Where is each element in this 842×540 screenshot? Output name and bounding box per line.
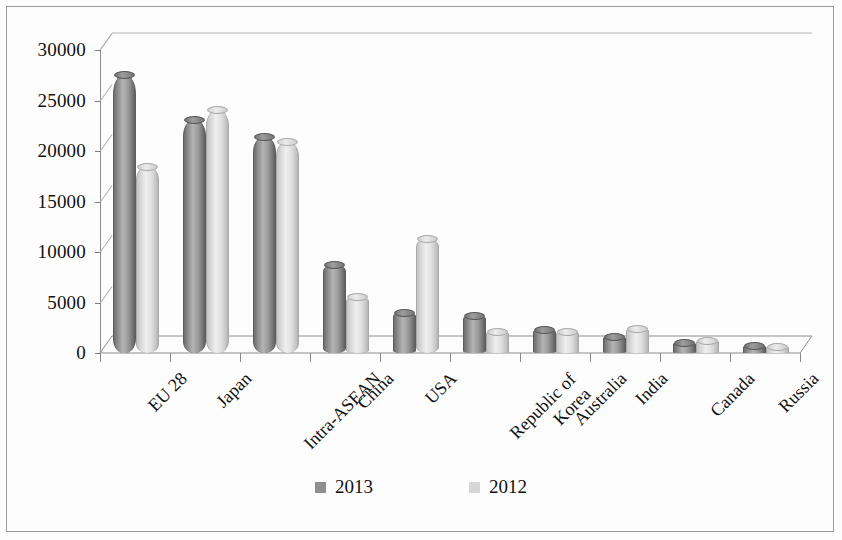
bar-2012-eu-28[interactable]: [136, 167, 159, 353]
x-axis-tick: [660, 353, 661, 362]
bar-2012-japan[interactable]: [206, 110, 229, 353]
bar-cap: [627, 325, 648, 333]
bar-2013-canada[interactable]: [673, 343, 696, 353]
bar-2013-russia[interactable]: [743, 346, 766, 353]
bar-cap: [347, 293, 368, 301]
bar-cap: [207, 106, 228, 114]
legend-swatch-2013: [315, 482, 326, 493]
bar-2013-india[interactable]: [603, 337, 626, 353]
x-axis-tick: [100, 353, 101, 362]
y-axis-tick-label: 25000: [38, 90, 87, 112]
bar-2012-australia[interactable]: [556, 332, 579, 353]
y-axis-tick-label: 15000: [38, 191, 87, 213]
x-axis-tick: [590, 353, 591, 362]
bar-cap: [417, 235, 438, 243]
bar-cap: [114, 71, 135, 79]
y-axis-tick: [95, 101, 101, 102]
y-axis-tick-label: 30000: [38, 39, 87, 61]
y-axis-tick-label: 10000: [38, 241, 87, 263]
bar-cap: [277, 138, 298, 146]
bar-2013-intra-asean[interactable]: [253, 137, 276, 353]
y-axis-tick: [95, 202, 101, 203]
bar-2012-republic-of-korea[interactable]: [486, 332, 509, 353]
bar-2012-usa[interactable]: [416, 239, 439, 353]
y-axis-tick: [95, 151, 101, 152]
bar-cap: [464, 312, 485, 320]
bar-cap: [557, 328, 578, 336]
gridline-connector: [100, 84, 113, 102]
y-axis-tick-label: 5000: [47, 292, 86, 314]
y-axis-tick-label: 20000: [38, 140, 87, 162]
legend-item-2013[interactable]: 2013: [315, 476, 373, 498]
x-axis-tick: [450, 353, 451, 362]
bar-cap: [697, 337, 718, 345]
y-axis-tick: [95, 252, 101, 253]
bar-cap: [674, 339, 695, 347]
x-axis-tick: [310, 353, 311, 362]
gridline-connector: [100, 286, 113, 304]
gridline-connector: [100, 235, 113, 253]
bar-2013-australia[interactable]: [533, 330, 556, 353]
bar-cap: [394, 309, 415, 317]
legend-label-2013: 2013: [335, 476, 373, 498]
bar-cap: [254, 133, 275, 141]
legend-label-2012: 2012: [489, 476, 527, 498]
chart-container: 050001000015000200002500030000 EU 28Japa…: [0, 0, 842, 540]
y-axis-tick: [95, 50, 101, 51]
legend-item-2012[interactable]: 2012: [469, 476, 527, 498]
x-axis-tick: [380, 353, 381, 362]
bar-2013-eu-28[interactable]: [113, 75, 136, 353]
bar-2013-china[interactable]: [323, 265, 346, 353]
x-axis-tick: [170, 353, 171, 362]
plot-area: 050001000015000200002500030000: [100, 50, 800, 353]
x-axis-tick: [730, 353, 731, 362]
bar-2012-russia[interactable]: [766, 347, 789, 353]
gridline-connector: [100, 134, 113, 152]
bar-cap: [184, 116, 205, 124]
y-axis-tick: [95, 303, 101, 304]
bar-2013-japan[interactable]: [183, 120, 206, 353]
x-axis-tick: [520, 353, 521, 362]
chart-legend: 2013 2012: [0, 476, 842, 498]
bar-cap: [487, 328, 508, 336]
bar-cap: [137, 163, 158, 171]
bar-cap: [767, 343, 788, 351]
bar-2012-canada[interactable]: [696, 341, 719, 353]
bar-2013-republic-of-korea[interactable]: [463, 316, 486, 353]
bar-cap: [744, 342, 765, 350]
bar-cap: [534, 326, 555, 334]
bar-cap: [604, 333, 625, 341]
legend-swatch-2012: [469, 482, 480, 493]
gridline-connector: [100, 185, 113, 203]
bar-2012-intra-asean[interactable]: [276, 142, 299, 353]
y-axis-tick-label: 0: [76, 342, 86, 364]
bar-2013-usa[interactable]: [393, 313, 416, 353]
x-axis-tick: [240, 353, 241, 362]
bar-2012-india[interactable]: [626, 329, 649, 353]
x-axis-tick: [800, 353, 801, 362]
bar-2012-china[interactable]: [346, 297, 369, 353]
bar-cap: [324, 261, 345, 269]
